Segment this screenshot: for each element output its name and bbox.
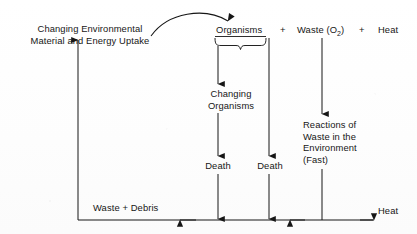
- label-changing-environmental-uptake: Changing Environmental Material and Ener…: [8, 23, 172, 46]
- waste-o2-main: Waste (O: [297, 24, 337, 35]
- label-heat-bottom: Heat: [378, 205, 398, 217]
- ecosystem-flow-diagram: Changing Environmental Material and Ener…: [0, 0, 417, 234]
- organisms-brace: [215, 38, 266, 50]
- label-waste-o2: Waste (O2): [297, 24, 344, 36]
- reactions-line-1: Reactions of: [303, 119, 356, 130]
- waste-o2-close-paren: ): [341, 24, 344, 35]
- label-reactions-of-waste: Reactions of Waste in the Environment (F…: [303, 119, 375, 165]
- label-heat-top: Heat: [378, 24, 398, 36]
- label-plus-sign-1: +: [280, 24, 286, 36]
- reactions-line-2: Waste in the: [303, 131, 356, 142]
- uptake-line-1: Changing Environmental: [38, 23, 143, 34]
- label-death-left: Death: [196, 160, 240, 172]
- changing-organisms-line-1: Changing: [211, 88, 252, 99]
- label-plus-sign-2: +: [359, 24, 365, 36]
- label-death-right: Death: [248, 160, 292, 172]
- changing-organisms-line-2: Organisms: [208, 100, 254, 111]
- label-waste-plus-debris: Waste + Debris: [93, 202, 158, 214]
- reactions-line-3: Environment: [303, 142, 357, 153]
- reactions-line-4: (Fast): [303, 154, 328, 165]
- uptake-line-2: Material and Energy Uptake: [31, 35, 150, 46]
- label-organisms: Organisms: [216, 24, 262, 36]
- label-changing-organisms: Changing Organisms: [196, 88, 266, 111]
